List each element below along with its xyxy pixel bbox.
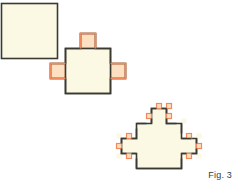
subtab-left-bottom (127, 154, 132, 159)
figure-caption: Fig. 3 (208, 170, 232, 180)
tab-right (111, 64, 126, 79)
subtab-top-b (167, 104, 172, 109)
figure-container: Fig. 3 (0, 0, 236, 182)
subtab-top-right (167, 114, 172, 119)
figure-canvas (0, 0, 236, 182)
tab-top (81, 34, 96, 49)
stage-1-square (2, 4, 58, 59)
stage-3-fractal (117, 104, 202, 169)
subtab-right-outer (197, 144, 202, 149)
subtab-left-outer (117, 144, 122, 149)
subtab-left-top (127, 134, 132, 139)
stage-2-cross (51, 34, 126, 94)
square-outline (2, 4, 58, 59)
tab-left (51, 64, 66, 79)
subtab-top-left (147, 114, 152, 119)
subtab-top-a (157, 104, 162, 109)
cross-body (66, 49, 111, 94)
subtab-right-bottom (187, 154, 192, 159)
